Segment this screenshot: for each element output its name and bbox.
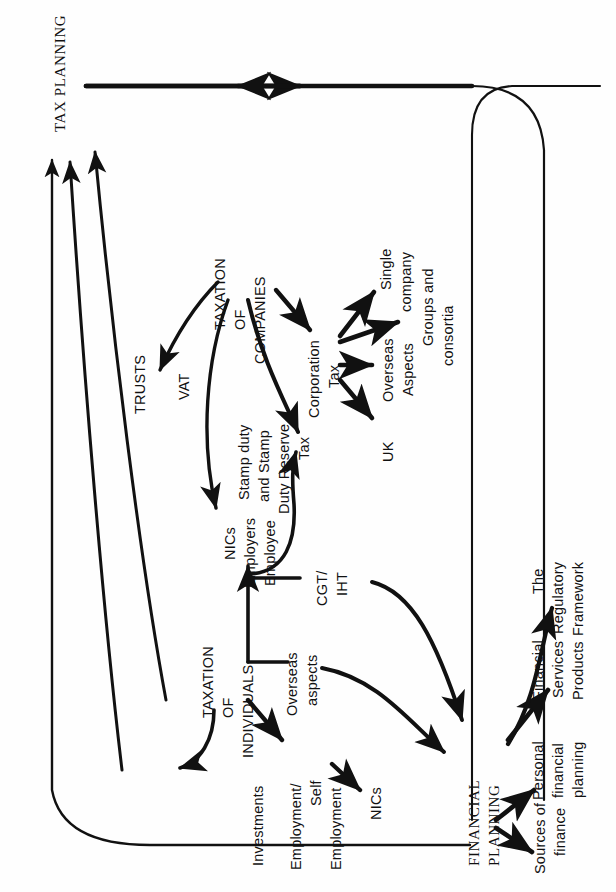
node-tax-planning: TAX PLANNING — [52, 15, 69, 132]
node-taxation-of-companies-line2: OF — [232, 309, 248, 330]
node-taxation-of-companies-line1: TAXATION — [212, 258, 228, 330]
diagram-page: TAX PLANNING TRUSTS VAT TAXATION OF COMP… — [0, 0, 616, 892]
node-personal-financial-planning-line1: Personal — [530, 741, 546, 800]
node-uk: UK — [380, 441, 396, 462]
edge-corporation-tax-to-uk — [340, 380, 372, 418]
node-cgt-iht-line1: CGT/ — [314, 571, 330, 606]
node-financial-planning-line2: PLANNING — [486, 785, 503, 866]
node-corporation-tax-line2: Tax — [326, 365, 342, 388]
node-employment-line1: Employment/ — [288, 783, 304, 870]
edge-trusts-to-tax-planning — [70, 162, 122, 770]
node-vat: VAT — [176, 373, 192, 400]
node-investments: Investments — [250, 786, 266, 866]
node-taxation-of-individuals-line1: TAXATION — [200, 646, 216, 718]
node-taxation-of-individuals-line2: OF — [220, 697, 236, 718]
node-overseas-aspects-companies-line2: Aspects — [400, 343, 416, 396]
node-cgt-iht-line2: IHT — [334, 572, 350, 596]
node-nics-bottom: NICs — [368, 787, 384, 820]
node-single-company-line1: Single — [378, 248, 394, 290]
node-groups-consortia-line1: Groups and — [420, 268, 436, 346]
node-overseas-aspects-individuals-line1: Overseas — [284, 652, 300, 716]
node-nics-employers-line1: NICs — [222, 527, 238, 560]
node-overseas-aspects-companies-line1: Overseas — [380, 338, 396, 402]
node-employment-line2: Self — [308, 780, 324, 806]
node-single-company-line2: company — [398, 252, 414, 312]
node-financial-services-products-line2: Services — [550, 641, 566, 698]
node-financial-services-products-line1: Financial — [530, 640, 546, 700]
node-financial-planning-line1: FINANCIAL — [466, 780, 483, 866]
node-regulatory-framework-line1: The — [530, 568, 546, 594]
edge-corporation-tax-to-single-company — [340, 292, 374, 336]
node-stamp-duty-line4: Tax — [296, 437, 312, 460]
node-stamp-duty-line3: Duty Reserve — [276, 424, 292, 514]
edge-companies-to-vat — [160, 282, 218, 370]
node-employment-line3: Employment — [328, 787, 344, 870]
node-sources-of-finance-line2: finance — [552, 808, 568, 856]
node-financial-services-products-line3: Products — [570, 641, 586, 700]
node-taxation-of-companies-line3: COMPANIES — [252, 276, 268, 364]
node-regulatory-framework-line2: Regulatory — [550, 562, 566, 634]
node-taxation-of-individuals-line3: INDIVIDUALS — [240, 665, 256, 758]
node-nics-employers-line2: Employers — [242, 518, 258, 588]
node-overseas-aspects-individuals-line2: aspects — [304, 655, 320, 706]
node-groups-consortia-line2: consortia — [440, 305, 456, 366]
node-nics-employers-line3: Employee — [262, 520, 278, 586]
node-personal-financial-planning-line2: financial — [550, 743, 566, 798]
node-trusts: TRUSTS — [132, 355, 148, 414]
node-sources-of-finance-line1: Sources of — [532, 803, 548, 874]
edge-individuals-to-investments — [180, 710, 214, 768]
node-regulatory-framework-line3: Framework — [570, 562, 586, 636]
node-corporation-tax-line1: Corporation — [306, 340, 322, 418]
node-stamp-duty-line1: Stamp duty — [236, 425, 252, 500]
node-stamp-duty-line2: and Stamp — [256, 430, 272, 502]
edge-companies-to-nics — [207, 300, 228, 508]
edge-overseas-aspects-to-financial-planning — [322, 668, 444, 752]
edge-employment-to-nics — [332, 764, 360, 790]
node-personal-financial-planning-line3: planning — [570, 742, 586, 798]
edge-companies-to-corporation-tax — [276, 290, 310, 330]
